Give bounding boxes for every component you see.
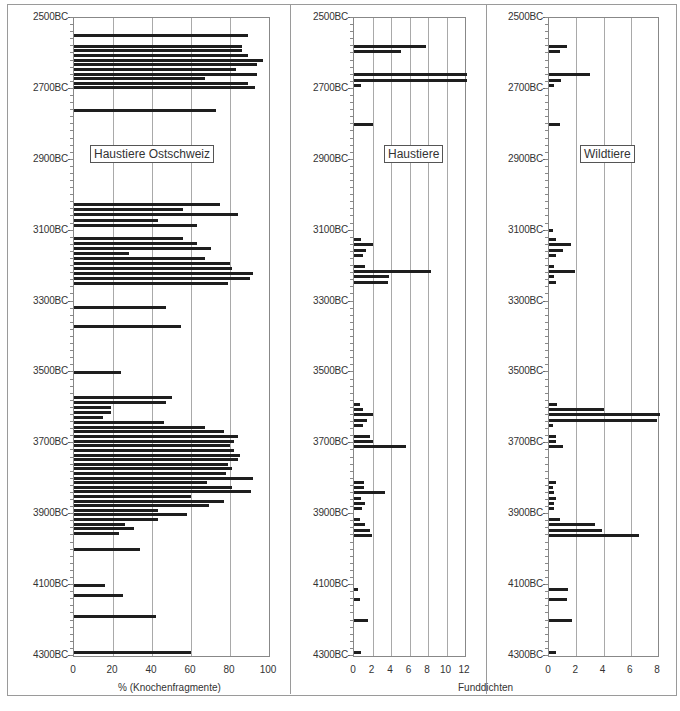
data-bar <box>74 396 172 399</box>
y-minor-tick <box>70 265 73 266</box>
y-minor-tick <box>545 81 548 82</box>
y-minor-tick <box>545 655 548 656</box>
data-bar <box>74 306 166 309</box>
data-bar <box>354 491 385 494</box>
y-minor-tick <box>70 364 73 365</box>
y-minor-tick <box>350 38 353 39</box>
y-tick-label: 4100BC <box>288 578 348 589</box>
y-minor-tick <box>350 386 353 387</box>
gridline <box>191 18 192 656</box>
y-tick-label: 3500BC <box>8 365 68 376</box>
y-minor-tick <box>545 513 548 514</box>
y-minor-tick <box>545 293 548 294</box>
y-minor-tick <box>545 279 548 280</box>
y-minor-tick <box>545 322 548 323</box>
y-minor-tick <box>545 52 548 53</box>
y-tick-label: 2900BC <box>288 153 348 164</box>
y-minor-tick <box>350 527 353 528</box>
y-minor-tick <box>350 45 353 46</box>
y-minor-tick <box>70 38 73 39</box>
y-tick-label: 3700BC <box>8 436 68 447</box>
gridline <box>373 18 374 656</box>
y-minor-tick <box>70 74 73 75</box>
y-minor-tick <box>350 123 353 124</box>
y-minor-tick <box>350 251 353 252</box>
data-bar <box>354 588 358 591</box>
data-bar <box>549 249 563 252</box>
y-minor-tick <box>350 159 353 160</box>
data-bar <box>74 45 242 48</box>
data-bar <box>74 532 119 535</box>
y-minor-tick <box>545 627 548 628</box>
gridline <box>391 18 392 656</box>
y-minor-tick <box>70 435 73 436</box>
y-minor-tick <box>70 286 73 287</box>
y-minor-tick <box>545 471 548 472</box>
y-minor-tick <box>350 563 353 564</box>
y-minor-tick <box>545 138 548 139</box>
y-minor-tick <box>70 520 73 521</box>
data-bar <box>549 486 553 489</box>
y-tick-label: 2500BC <box>288 11 348 22</box>
y-minor-tick <box>350 556 353 557</box>
y-minor-tick <box>545 102 548 103</box>
y-minor-tick <box>70 17 73 18</box>
y-minor-tick <box>70 208 73 209</box>
data-bar <box>74 86 255 89</box>
y-minor-tick <box>70 464 73 465</box>
data-bar <box>74 49 242 52</box>
y-minor-tick <box>350 414 353 415</box>
data-bar <box>74 272 253 275</box>
y-minor-tick <box>545 379 548 380</box>
x-tick-label: 40 <box>139 664 163 675</box>
y-minor-tick <box>70 60 73 61</box>
y-minor-tick <box>350 471 353 472</box>
data-bar <box>354 651 361 654</box>
y-minor-tick <box>70 478 73 479</box>
y-minor-tick <box>350 435 353 436</box>
data-bar <box>549 424 553 427</box>
y-minor-tick <box>70 230 73 231</box>
y-minor-tick <box>350 570 353 571</box>
data-bar <box>74 77 205 80</box>
data-bar <box>74 481 207 484</box>
y-minor-tick <box>70 293 73 294</box>
legend-wildtiere: Wildtiere <box>580 145 635 163</box>
y-minor-tick <box>70 499 73 500</box>
y-minor-tick <box>350 52 353 53</box>
data-bar <box>74 518 158 521</box>
x-axis-title-middle: Funddichten <box>458 682 513 693</box>
data-bar <box>549 445 563 448</box>
y-minor-tick <box>545 549 548 550</box>
data-bar <box>354 481 364 484</box>
plot-area-middle <box>353 17 466 657</box>
y-minor-tick <box>70 449 73 450</box>
y-minor-tick <box>350 357 353 358</box>
data-bar <box>74 267 232 270</box>
data-bar <box>74 458 238 461</box>
x-tick-label: 12 <box>452 664 476 675</box>
y-minor-tick <box>70 180 73 181</box>
y-tick-label: 3300BC <box>483 295 543 306</box>
y-minor-tick <box>350 634 353 635</box>
y-minor-tick <box>350 464 353 465</box>
y-minor-tick <box>350 542 353 543</box>
data-bar <box>74 440 234 443</box>
y-minor-tick <box>70 308 73 309</box>
y-minor-tick <box>545 230 548 231</box>
y-minor-tick <box>350 605 353 606</box>
data-bar <box>549 84 554 87</box>
data-bar <box>354 419 367 422</box>
y-minor-tick <box>545 286 548 287</box>
y-minor-tick <box>350 549 353 550</box>
y-minor-tick <box>350 138 353 139</box>
y-minor-tick <box>545 386 548 387</box>
y-tick-label: 3700BC <box>483 436 543 447</box>
data-bar <box>549 502 554 505</box>
data-bar <box>74 59 263 62</box>
y-minor-tick <box>70 102 73 103</box>
y-tick-label: 3300BC <box>288 295 348 306</box>
y-minor-tick <box>70 393 73 394</box>
y-minor-tick <box>350 201 353 202</box>
data-bar <box>74 242 197 245</box>
